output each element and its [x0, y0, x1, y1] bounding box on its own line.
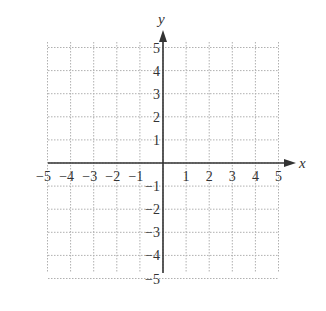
- x-axis-arrow-icon: [284, 159, 296, 167]
- y-axis-arrow-icon: [159, 30, 167, 42]
- x-tick-label: −3: [82, 169, 97, 184]
- y-tick-label: 2: [153, 110, 160, 125]
- y-tick-label: 3: [153, 87, 160, 102]
- y-axis-label: y: [156, 11, 165, 27]
- x-tick-label: −4: [59, 169, 74, 184]
- y-tick-label: −4: [145, 248, 160, 263]
- x-tick-label: 4: [252, 169, 259, 184]
- x-tick-label: −1: [128, 169, 143, 184]
- y-tick-label: −1: [145, 179, 160, 194]
- x-tick-label: −2: [105, 169, 120, 184]
- coordinate-plane: −5−4−3−2−112345 −5−4−3−2−112345 x y: [0, 0, 326, 311]
- x-axis-label: x: [298, 155, 306, 171]
- x-tick-label: 5: [275, 169, 282, 184]
- y-tick-label: −2: [145, 202, 160, 217]
- y-tick-label: −5: [145, 272, 160, 287]
- y-tick-label: 4: [153, 64, 160, 79]
- axes: [48, 30, 296, 273]
- y-tick-label: 5: [153, 41, 160, 56]
- y-tick-label: −3: [145, 225, 160, 240]
- x-tick-label: 2: [206, 169, 213, 184]
- x-tick-label: 3: [229, 169, 236, 184]
- x-tick-label: −5: [36, 169, 51, 184]
- x-tick-label: 1: [183, 169, 190, 184]
- y-tick-label: 1: [153, 133, 160, 148]
